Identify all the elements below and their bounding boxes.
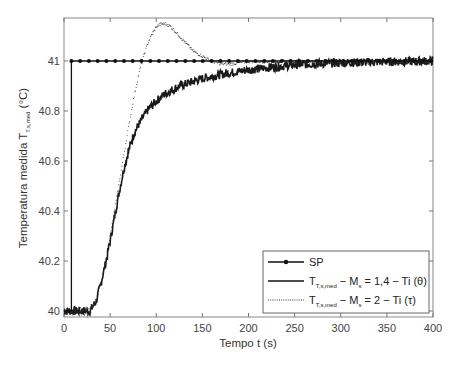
sp-marker-icon xyxy=(157,59,161,63)
sp-marker-icon xyxy=(359,59,363,63)
x-axis-title: Tempo t (s) xyxy=(219,337,277,349)
sp-marker-icon xyxy=(113,59,117,63)
sp-marker-icon xyxy=(69,59,73,63)
sp-marker-icon xyxy=(192,59,196,63)
sp-marker-icon xyxy=(376,59,380,63)
y-tick-label: 40.4 xyxy=(39,205,60,217)
sp-marker-icon xyxy=(280,59,284,63)
sp-marker-icon xyxy=(96,59,100,63)
sp-marker-icon xyxy=(367,59,371,63)
sp-marker-icon xyxy=(271,59,275,63)
sp-marker-icon xyxy=(324,59,328,63)
y-axis-title: Temperatura medida TT,s,med (°C) xyxy=(17,88,31,248)
y-tick-label: 41 xyxy=(48,55,60,67)
svg-text:Temperatura medida TT,s,med (°: Temperatura medida TT,s,med (°C) xyxy=(17,88,31,248)
legend-sp-label: SP xyxy=(309,256,324,268)
x-tick-label: 100 xyxy=(147,322,165,334)
sp-marker-icon xyxy=(284,260,288,264)
sp-marker-icon xyxy=(411,59,415,63)
sp-marker-icon xyxy=(175,59,179,63)
sp-marker-icon xyxy=(341,59,345,63)
sp-marker-icon xyxy=(183,59,187,63)
sp-marker-icon xyxy=(218,59,222,63)
sp-marker-icon xyxy=(350,59,354,63)
y-tick-label: 40.8 xyxy=(39,105,60,117)
sp-marker-icon xyxy=(236,59,240,63)
sp-marker-icon xyxy=(122,59,126,63)
x-tick-label: 400 xyxy=(424,322,442,334)
y-tick-label: 40 xyxy=(48,305,60,317)
x-tick-label: 350 xyxy=(378,322,396,334)
x-tick-label: 0 xyxy=(61,322,67,334)
sp-marker-icon xyxy=(201,59,205,63)
sp-marker-icon xyxy=(402,59,406,63)
sp-marker-icon xyxy=(385,59,389,63)
sp-marker-icon xyxy=(104,59,108,63)
legend: SP TT,s,med − Ms = 1,4 − Ti (θ) TT,s,med… xyxy=(263,251,429,313)
sp-marker-icon xyxy=(297,59,301,63)
sp-marker-icon xyxy=(420,59,424,63)
x-tick-label: 300 xyxy=(332,322,350,334)
sp-marker-icon xyxy=(394,59,398,63)
sp-marker-icon xyxy=(315,59,319,63)
sp-marker-icon xyxy=(429,59,433,63)
sp-marker-icon xyxy=(131,59,135,63)
sp-marker-icon xyxy=(166,59,170,63)
x-tick-label: 150 xyxy=(193,322,211,334)
sp-marker-icon xyxy=(306,59,310,63)
x-tick-label: 250 xyxy=(285,322,303,334)
chart: 050100150200250300350400 4040.240.440.64… xyxy=(0,0,461,367)
sp-marker-icon xyxy=(210,59,214,63)
sp-marker-icon xyxy=(332,59,336,63)
sp-marker-icon xyxy=(227,59,231,63)
y-tick-label: 40.6 xyxy=(39,155,60,167)
x-tick-label: 200 xyxy=(239,322,257,334)
sp-marker-icon xyxy=(148,59,152,63)
sp-marker-icon xyxy=(253,59,257,63)
sp-marker-icon xyxy=(245,59,249,63)
sp-marker-icon xyxy=(87,59,91,63)
sp-marker-icon xyxy=(289,59,293,63)
sp-marker-icon xyxy=(78,59,82,63)
sp-marker-icon xyxy=(140,59,144,63)
x-tick-label: 50 xyxy=(104,322,116,334)
y-tick-label: 40.2 xyxy=(39,255,60,267)
sp-marker-icon xyxy=(262,59,266,63)
